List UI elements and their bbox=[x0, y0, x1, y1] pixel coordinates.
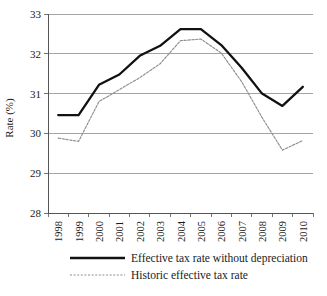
x-tick-label-2007: 2007 bbox=[237, 221, 248, 242]
y-axis-tick-labels-group: 282930313233 bbox=[30, 8, 42, 219]
x-axis-tick-labels-group: 1998199920002001200220032004200520062007… bbox=[53, 220, 309, 242]
y-tick-label-31: 31 bbox=[30, 88, 41, 100]
legend: Effective tax rate without depreciationH… bbox=[70, 252, 308, 281]
x-tick-label-2005: 2005 bbox=[196, 221, 207, 242]
y-tick-label-30: 30 bbox=[30, 127, 42, 139]
x-tick-label-2002: 2002 bbox=[135, 221, 146, 242]
legend-item-2: Historic effective tax rate bbox=[70, 269, 248, 281]
x-tick-label-2006: 2006 bbox=[216, 221, 227, 242]
legend-item-1: Effective tax rate without depreciation bbox=[70, 252, 308, 265]
x-tick-label-2009: 2009 bbox=[277, 221, 288, 242]
chart-figure: 282930313233 199819992000200120022003200… bbox=[0, 0, 327, 296]
y-axis-ticks-group bbox=[44, 14, 48, 213]
x-axis-ticks-group bbox=[48, 213, 313, 217]
legend-label-1: Effective tax rate without depreciation bbox=[131, 252, 308, 265]
y-tick-label-29: 29 bbox=[30, 167, 42, 179]
y-tick-label-28: 28 bbox=[30, 207, 42, 219]
x-tick-label-1998: 1998 bbox=[53, 221, 64, 242]
x-tick-label-2003: 2003 bbox=[155, 221, 166, 242]
data-series-group bbox=[58, 29, 303, 150]
x-tick-label-1999: 1999 bbox=[74, 221, 85, 242]
y-tick-label-32: 32 bbox=[30, 48, 41, 60]
x-tick-label-2001: 2001 bbox=[114, 221, 125, 242]
gridlines-group bbox=[48, 14, 313, 173]
y-tick-label-33: 33 bbox=[30, 8, 42, 20]
series-line-1 bbox=[58, 29, 303, 115]
x-tick-label-2010: 2010 bbox=[298, 221, 309, 242]
x-tick-label-2004: 2004 bbox=[176, 220, 187, 242]
x-tick-label-2008: 2008 bbox=[257, 221, 268, 242]
legend-label-2: Historic effective tax rate bbox=[131, 269, 248, 281]
line-chart-canvas: 282930313233 199819992000200120022003200… bbox=[0, 0, 327, 296]
x-tick-label-2000: 2000 bbox=[94, 221, 105, 242]
y-axis-title: Rate (%) bbox=[3, 98, 16, 138]
